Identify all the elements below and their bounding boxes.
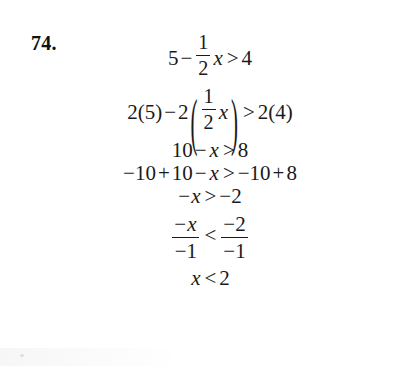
step4-minus: − [193, 161, 209, 185]
step1-fraction-numerator: 1 [196, 32, 210, 54]
step5-variable: x [190, 184, 201, 208]
step6-left-numerator-variable: x [186, 212, 197, 236]
equation-step-6: −x−1<−2−1 [60, 213, 360, 263]
step6-right-fraction: −2−1 [221, 213, 247, 263]
equation-step-3: 10−x>8 [60, 140, 360, 161]
step4-lhs-second: 10 [172, 161, 193, 185]
step2-rhs: 2(4) [258, 100, 293, 124]
step5-rhs: −2 [219, 184, 241, 208]
equation-step-4: −10+10−x>−10+8 [60, 163, 360, 184]
step4-variable: x [209, 161, 220, 185]
equation-step-2: 2(5)−2(12x)>2(4) [60, 86, 360, 134]
step6-left-numerator: −x [172, 213, 199, 236]
step1-lhs-first: 5 [168, 46, 179, 70]
equation-step-5: −x>−2 [60, 186, 360, 207]
step1-minus: − [178, 46, 194, 70]
solution-steps: 5−12x>4 2(5)−2(12x)>2(4) 10−x>8 −10+10−x… [60, 26, 360, 289]
step2-fraction-bar [202, 109, 216, 110]
step3-variable: x [209, 138, 220, 162]
step2-fraction: 12 [202, 86, 216, 134]
step6-relation: < [201, 223, 219, 247]
step7-relation: < [201, 266, 219, 290]
worked-solution-page: 74. 5−12x>4 2(5)−2(12x)>2(4) 10−x>8 −10+… [0, 0, 405, 366]
step2-minus: − [162, 100, 178, 124]
step2-relation: > [240, 100, 258, 124]
step6-right-fraction-bar [221, 237, 247, 238]
step4-rhs-second: 8 [286, 161, 297, 185]
step2-paren-open: ( [189, 91, 200, 155]
step2-fraction-numerator: 1 [202, 86, 216, 108]
scan-artifact [0, 348, 405, 366]
step6-left-denominator: −1 [172, 239, 199, 262]
step4-plus: + [156, 161, 172, 185]
problem-number: 74. [31, 32, 57, 55]
equation-step-1: 5−12x>4 [60, 32, 360, 80]
step6-left-fraction-bar [172, 237, 199, 238]
step6-left-numerator-minus: − [174, 212, 186, 236]
step4-lhs-first: −10 [123, 161, 156, 185]
step4-rhs-plus: + [271, 161, 287, 185]
step2-paren-close: ) [229, 91, 240, 155]
step7-rhs: 2 [219, 266, 230, 290]
step1-fraction-bar [196, 55, 210, 56]
step4-relation: > [220, 161, 238, 185]
step1-relation: > [224, 46, 242, 70]
step4-rhs-first: −10 [238, 161, 271, 185]
step2-lhs-first: 2(5) [127, 100, 162, 124]
step2-variable: x [218, 100, 229, 124]
step6-right-numerator: −2 [221, 213, 247, 236]
step5-minus: − [178, 184, 190, 208]
equation-step-7: x<2 [60, 268, 360, 289]
step7-variable: x [190, 266, 201, 290]
step1-rhs: 4 [242, 46, 253, 70]
scan-speck [20, 354, 24, 357]
step1-fraction: 12 [196, 32, 210, 80]
step2-coefficient: 2 [178, 100, 189, 124]
step6-right-denominator: −1 [221, 239, 247, 262]
step6-left-fraction: −x−1 [172, 213, 199, 263]
step2-fraction-denominator: 2 [202, 111, 216, 133]
step5-relation: > [201, 184, 219, 208]
step1-fraction-denominator: 2 [196, 57, 210, 79]
step1-variable: x [212, 46, 223, 70]
